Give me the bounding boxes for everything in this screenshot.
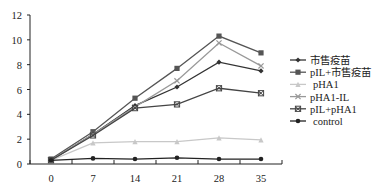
x-tick-label: 35 <box>256 173 267 184</box>
legend-label: pHA1 <box>313 79 339 90</box>
legend-marker-icon <box>296 119 301 124</box>
legend-label: control <box>313 116 343 127</box>
y-tick-label: 0 <box>17 159 22 170</box>
data-point-marker <box>174 66 179 71</box>
data-point-marker <box>216 34 221 39</box>
legend-marker-icon <box>295 70 300 75</box>
x-tick-label: 7 <box>90 173 95 184</box>
legend-item: pHA1 <box>290 79 339 90</box>
series-pHA1-IL <box>48 40 263 163</box>
x-tick-label: 21 <box>172 173 183 184</box>
data-point-marker <box>217 157 222 162</box>
y-tick-label: 10 <box>12 35 23 46</box>
data-point-marker <box>49 158 54 163</box>
series-line <box>51 62 261 160</box>
data-point-marker <box>216 40 221 45</box>
legend-item: control <box>290 116 343 127</box>
legend-item: pHA1-IL <box>290 92 349 103</box>
legend-label: 市售疫苗 <box>310 54 350 66</box>
y-tick-label: 12 <box>12 10 23 21</box>
data-point-marker <box>174 78 179 83</box>
legend-label: pHA1-IL <box>310 92 349 103</box>
y-tick-label: 4 <box>17 109 23 120</box>
x-tick-label: 28 <box>214 173 225 184</box>
data-point-marker <box>258 63 263 68</box>
data-point-marker <box>175 155 180 160</box>
series-line <box>51 88 261 160</box>
series-pIL+pHA1 <box>48 86 263 163</box>
legend-item: pIL+市售疫苗 <box>290 66 371 78</box>
y-tick-label: 2 <box>17 134 22 145</box>
legend-item: pIL+pHA1 <box>290 104 357 115</box>
x-tick-label: 14 <box>130 173 141 184</box>
series-line <box>51 43 261 160</box>
line-chart: 0246810120714212835 市售疫苗pIL+市售疫苗pHA1pHA1… <box>0 0 383 194</box>
data-point-marker <box>259 157 264 162</box>
data-point-marker <box>258 68 263 73</box>
series-line <box>51 158 261 160</box>
series-layer <box>48 34 263 163</box>
y-tick-label: 6 <box>17 85 22 96</box>
legend-label: pIL+pHA1 <box>310 104 357 115</box>
legend: 市售疫苗pIL+市售疫苗pHA1pHA1-ILpIL+pHA1control <box>290 54 371 127</box>
legend-item: 市售疫苗 <box>290 54 350 66</box>
legend-marker-icon <box>295 57 300 62</box>
data-point-marker <box>91 156 96 161</box>
data-point-marker <box>132 96 137 101</box>
y-tick-label: 8 <box>17 60 22 71</box>
legend-label: pIL+市售疫苗 <box>310 66 371 78</box>
data-point-marker <box>258 50 263 55</box>
data-point-marker <box>133 157 138 162</box>
x-tick-label: 0 <box>48 173 53 184</box>
